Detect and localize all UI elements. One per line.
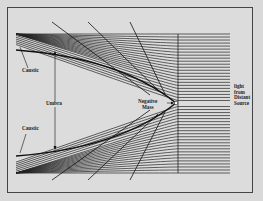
caustic-bottom-label: Caustic (22, 126, 39, 132)
ray-diagram (0, 0, 263, 201)
light-source-label: light from Distant Source (234, 84, 250, 106)
umbra-label: Umbra (46, 101, 62, 107)
negative-mass-point (174, 101, 178, 105)
negative-mass-label: Negative Mass (138, 99, 157, 110)
caustic-top-label: Caustic (22, 68, 39, 74)
